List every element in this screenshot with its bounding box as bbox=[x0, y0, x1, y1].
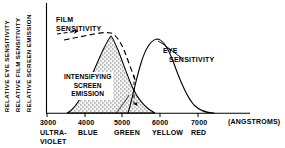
annotation-film-sensitivity: FILM SENSITIVITY bbox=[56, 15, 102, 33]
y-axis-caption-film: RELATIVE FILM SENSITIVITY bbox=[15, 17, 21, 112]
annotation-eye-line2: SENSITIVITY bbox=[169, 55, 215, 64]
annotation-screen-line3: EMISSION bbox=[64, 90, 111, 99]
x-tick-6000-value: 6000 bbox=[152, 118, 183, 128]
x-tick-3000-value: 3000 bbox=[40, 118, 67, 128]
x-tick-7000-value: 7000 bbox=[191, 118, 207, 128]
x-axis-units-label: (ANGSTROMS) bbox=[228, 118, 280, 125]
annotation-screen-line2: SCREEN bbox=[64, 82, 111, 91]
y-axis-caption-group: RELATIVE EYE SENSITIVITY RELATIVE FILM S… bbox=[0, 0, 46, 120]
x-tick-7000-band: RED bbox=[191, 128, 207, 138]
x-tick-4000-band: BLUE bbox=[78, 128, 98, 138]
annotation-film-line2: SENSITIVITY bbox=[56, 24, 102, 33]
x-tick-3000-band: ULTRA- bbox=[40, 128, 67, 138]
y-axis-caption-screen: RELATIVE SCREEN EMISSION bbox=[26, 14, 32, 112]
x-tick-3000: 3000 ULTRA- VIOLET bbox=[40, 118, 67, 147]
x-tick-5000-band: GREEN bbox=[114, 128, 140, 138]
x-tick-5000-value: 5000 bbox=[114, 118, 140, 128]
x-tick-5000: 5000 GREEN bbox=[114, 118, 140, 137]
annotation-screen-emission: INTENSIFYING SCREEN EMISSION bbox=[62, 72, 113, 100]
x-tick-7000: 7000 RED bbox=[191, 118, 207, 137]
x-tick-4000: 4000 BLUE bbox=[78, 118, 98, 137]
annotation-eye-line1: EYE bbox=[163, 46, 215, 55]
y-axis-caption-eye: RELATIVE EYE SENSITIVITY bbox=[4, 20, 10, 112]
x-tick-4000-value: 4000 bbox=[78, 118, 98, 128]
spectral-response-figure: RELATIVE EYE SENSITIVITY RELATIVE FILM S… bbox=[0, 0, 285, 148]
annotation-screen-line1: INTENSIFYING bbox=[64, 73, 111, 82]
x-tick-6000-band: YELLOW bbox=[152, 128, 183, 138]
annotation-eye-sensitivity: EYE SENSITIVITY bbox=[163, 46, 215, 64]
x-tick-6000: 6000 YELLOW bbox=[152, 118, 183, 137]
x-tick-3000-band2: VIOLET bbox=[40, 137, 67, 147]
annotation-film-line1: FILM bbox=[56, 15, 102, 24]
